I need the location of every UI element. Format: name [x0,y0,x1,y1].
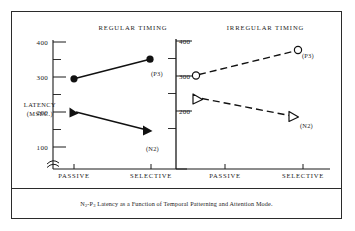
series-line-n2-regular [76,112,148,130]
datapoint-p3-regular-selective [146,56,153,63]
datapoint-p3-irregular-selective [294,46,301,53]
plot-area: REGULAR TIMING IRREGULAR TIMING LATENCY … [12,12,341,188]
datapoint-n2-regular-selective [143,126,153,136]
caption-bar: N2-P3 Latency as a Function of Temporal … [12,189,341,219]
series-line-n2-irregular [202,99,292,117]
caption-rest: Latency as a Function of Temporal Patter… [96,200,273,207]
datapoint-p3-irregular-passive [192,72,199,79]
series-line-p3-irregular [199,51,295,75]
datapoint-p3-regular-passive [70,75,77,82]
datapoint-n2-irregular-passive [193,94,203,104]
series-line-p3-regular [74,60,149,79]
datapoint-n2-irregular-selective [289,112,299,122]
chart-graphics [12,12,343,188]
figure-frame: REGULAR TIMING IRREGULAR TIMING LATENCY … [11,11,342,219]
figure-caption: N2-P3 Latency as a Function of Temporal … [80,200,272,208]
